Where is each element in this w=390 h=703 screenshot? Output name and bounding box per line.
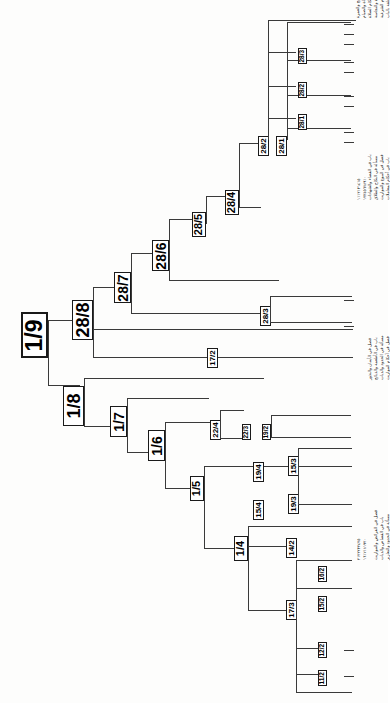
tree-node-16-2[interactable]: 16/2 (318, 566, 327, 582)
tree-node-1-7[interactable]: 1/7 (110, 406, 127, 437)
leaf-stub (344, 96, 354, 97)
connector-28-2-leaf-4 (268, 118, 296, 119)
connector-19-2-leaf-1 (271, 415, 351, 416)
leaf-label: مسألة في النكاح والطلاق (374, 156, 378, 200)
tree-node-15-4[interactable]: 15/4 (253, 500, 264, 520)
tree-node-17-2[interactable]: 17/2 (207, 348, 218, 368)
tree-node-15-2[interactable]: 15/2 (318, 596, 327, 612)
connector-17-3-fan (296, 560, 297, 692)
leaf-label: باب في القصاص والديات (380, 517, 384, 560)
tree-node-28-1[interactable]: 28/1 (276, 136, 287, 156)
tree-node-19-4[interactable]: 19/4 (253, 462, 264, 482)
connector-17-3-leaf-5 (296, 692, 352, 693)
tree-node-1-8[interactable]: 1/8 (63, 386, 84, 426)
leaf-stub (344, 72, 354, 73)
connector-1-4-spine (248, 526, 249, 610)
leaf-label: فصل في بيان الأحكام الشرعية (380, 0, 384, 18)
connector-1-7-leaf (127, 398, 209, 399)
leaf-stub (344, 34, 354, 35)
leaf-label: المسائل الفقهية المتعلقة بالباب (386, 0, 390, 18)
connector-28-8-leaf-b (93, 357, 353, 358)
leaf-label: مسألة في الحدود والتعازير (386, 514, 390, 560)
leaf-number: ٢١٢٢٢٣٢٤٢٥ (356, 539, 361, 560)
connector-28-6-spine (169, 219, 170, 280)
tree-node-28-5[interactable]: 28/5 (192, 212, 206, 237)
tree-node-sub-c[interactable]: 28/1 (298, 114, 307, 130)
leaf-label: باب في القضاء والشهادات (368, 154, 372, 200)
leaf-label: باب في أحكام المعاملات (386, 157, 390, 200)
connector-28-8-spine (93, 287, 94, 357)
tree-node-sub-b[interactable]: 28/2 (298, 82, 307, 98)
leaf-stub (344, 650, 354, 651)
leaf-label: فصل في الزكاة والصيام (362, 0, 366, 18)
connector-19-3-fan (298, 448, 299, 504)
connector-28-1-leaf-1 (287, 22, 351, 23)
connector-17-3-leaf-3 (296, 648, 320, 649)
connector-28-3-leaf-1 (270, 296, 352, 297)
connector-28-5-spine (206, 196, 207, 224)
tree-node-19-2[interactable]: 19/2 (262, 424, 271, 440)
connector-28-8-leaf-a (93, 329, 353, 330)
connector-1-5-leaf (204, 466, 352, 467)
connector-17-3-leaf-4 (296, 674, 320, 675)
connector-28-6-b (169, 280, 279, 281)
connector-28-1-leaf-4 (287, 128, 351, 129)
leaf-label: مسألة في الحج والعمرة (356, 0, 360, 18)
leaf-label: مسألة في الطهارة والنجاسة (374, 0, 378, 18)
tree-node-28-4[interactable]: 28/4 (225, 190, 239, 215)
connector-1-6-a (165, 488, 193, 489)
connector-1-6-spine (165, 422, 166, 488)
tree-node-1-5[interactable]: 1/5 (190, 476, 204, 501)
connector-1-5-spine (204, 466, 205, 548)
connector-28-1-leaf-2 (287, 60, 351, 61)
leaf-label: باب في أحكام الصلاة (368, 0, 372, 18)
connector-28-3-leaf-2 (270, 322, 352, 323)
tree-node-11-2[interactable]: 11/2 (318, 670, 327, 686)
connector-1-8-spine (84, 378, 85, 426)
tree-node-14-2[interactable]: 14/2 (286, 538, 297, 558)
tree-node-1-6[interactable]: 1/6 (148, 430, 165, 461)
leaf-label: مسألة في الحدود والديات (380, 335, 384, 380)
tree-node-28-8[interactable]: 28/8 (72, 300, 93, 340)
connector-1-4-up (248, 526, 352, 527)
connector-22-4-b (220, 438, 244, 439)
leaf-label: باب في الأطعمة والذبائح (374, 337, 378, 380)
connector-1-6-leaf (165, 422, 210, 423)
connector-17-3-leaf-1 (296, 560, 352, 561)
leaf-number: ١٢٣٤٥٦٧٨٩١٠ (362, 176, 367, 200)
leaf-stub (344, 300, 354, 301)
connector-28-4-spine (239, 143, 240, 207)
leaf-stub (344, 62, 354, 63)
leaf-stub (344, 676, 354, 677)
connector-28-2-fan (268, 20, 269, 140)
connector-19-2-leaf-2 (271, 437, 351, 438)
leaf-number: ١١١٢١٣١٤١٥ (356, 179, 361, 200)
tree-node-12-2[interactable]: 12/2 (318, 642, 327, 658)
tree-node-28-6[interactable]: 28/6 (152, 240, 169, 271)
leaf-label: فصل في الأيمان والنذور (368, 338, 372, 380)
connector-28-1-leaf-3 (287, 95, 351, 96)
connector-17-3-leaf-2 (296, 588, 352, 589)
tree-node-28-7[interactable]: 28/7 (114, 272, 131, 303)
connector-1-8-a (84, 426, 112, 427)
connector-root-spine (48, 320, 49, 385)
connector-1-4-mid (248, 546, 288, 547)
leaf-number: ١٦١٧١٨١٩٢٠ (362, 539, 367, 560)
leaf-label: فصل في الفرائض والمواريث (374, 510, 378, 560)
tree-node-sub-a[interactable]: 28/3 (298, 48, 307, 64)
tree-node-22-3[interactable]: 22/3 (242, 424, 251, 440)
connector-19-3-leaf-1 (298, 448, 352, 449)
connector-1-4-down (248, 610, 288, 611)
connector-19-2-fan (271, 415, 272, 437)
tree-node-1-4[interactable]: 1/4 (234, 536, 248, 561)
connector-19-3-leaf-2 (298, 504, 352, 505)
leaf-stub (344, 106, 354, 107)
connector-28-1-fan (287, 22, 288, 140)
leaf-label: فصل في البيوع والمواريث (380, 155, 384, 200)
leaf-stub (344, 44, 354, 45)
tree-node-root[interactable]: 1/9 (21, 312, 48, 358)
connector-28-2-leaf-1 (268, 20, 356, 21)
connector-28-3-spine (270, 296, 271, 322)
connector-28-2-leaf-2 (268, 52, 296, 53)
